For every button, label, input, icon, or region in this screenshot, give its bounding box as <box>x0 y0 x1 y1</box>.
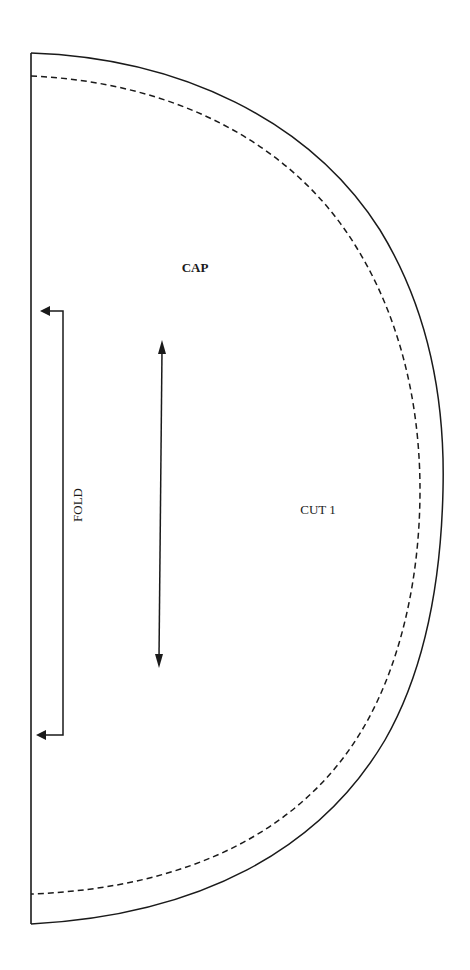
grainline-arrow <box>155 340 166 668</box>
cutting-line <box>31 53 443 924</box>
grainline-arrow-down-icon <box>155 654 163 668</box>
piece-name-label: CAP <box>182 260 209 275</box>
fold-bracket <box>36 306 63 740</box>
fold-label: FOLD <box>70 488 85 522</box>
cut-instruction-label: CUT 1 <box>300 502 336 517</box>
pattern-piece-cap: CAP CUT 1 FOLD <box>0 0 470 970</box>
fold-arrow-bottom-icon <box>36 730 46 740</box>
fold-arrow-top-icon <box>40 306 50 316</box>
seam-line <box>31 76 420 894</box>
grainline-arrow-up-icon <box>158 340 166 354</box>
